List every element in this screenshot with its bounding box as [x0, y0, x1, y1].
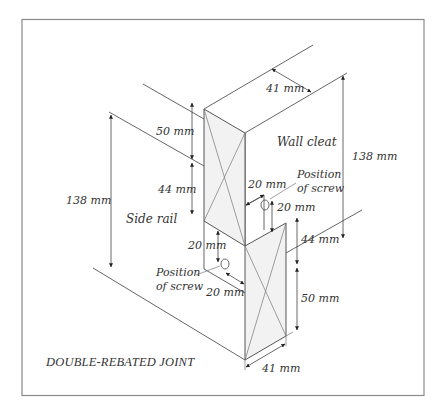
dim-wall-cleat-height-label: 138 mm: [352, 150, 397, 163]
dim-upper-rebate-bottom-label: 44 mm: [157, 183, 196, 196]
side-rail-label: Side rail: [126, 212, 177, 226]
lower-screw-label-line1: Position: [155, 266, 200, 279]
upper-screw-label-line1: Position: [296, 168, 341, 181]
dim-lower-rebate-bottom-label: 50 mm: [301, 292, 339, 305]
dim-upper-screw-vertical-label: 20 mm: [276, 201, 315, 214]
upper-screw-label-line2: of screw: [297, 182, 345, 195]
dim-lower-screw-vertical-label: 20 mm: [187, 239, 226, 252]
dim-upper-rebate-top-label: 50 mm: [156, 125, 194, 138]
diagram-title: DOUBLE-REBATED JOINT: [45, 355, 195, 369]
diagram-canvas: 41 mm 138 mm 138 mm 50 mm 44 mm 20 mm 20…: [0, 0, 446, 416]
dim-side-rail-height-label: 138 mm: [66, 194, 111, 207]
dim-top-width-label: 41 mm: [265, 82, 304, 95]
lower-screw-label-line2: of screw: [156, 280, 204, 293]
dim-lower-rebate-top-label: 44 mm: [300, 233, 339, 246]
wall-cleat-label: Wall cleat: [277, 135, 337, 149]
dim-lower-screw-horizontal-label: 20 mm: [205, 286, 244, 299]
dim-upper-screw-horizontal-label: 20 mm: [247, 178, 286, 191]
dim-bottom-width-label: 41 mm: [261, 362, 300, 375]
